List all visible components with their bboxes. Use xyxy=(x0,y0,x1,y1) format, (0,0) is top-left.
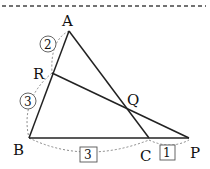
ratio-RB: 3 xyxy=(24,95,32,109)
segment-RP xyxy=(52,73,189,138)
label-P: P xyxy=(190,144,200,162)
geometry-diagram: A R B C P Q 2 3 3 1 xyxy=(0,0,210,169)
label-R: R xyxy=(33,65,45,83)
label-C: C xyxy=(140,147,151,165)
arc-CP xyxy=(149,140,189,145)
ratio-BC: 3 xyxy=(84,148,92,162)
ratio-AR: 2 xyxy=(44,38,52,52)
label-Q: Q xyxy=(127,91,139,109)
ratio-CP: 1 xyxy=(163,146,171,160)
label-B: B xyxy=(13,141,24,159)
segment-AC xyxy=(69,31,149,138)
label-A: A xyxy=(61,12,73,30)
